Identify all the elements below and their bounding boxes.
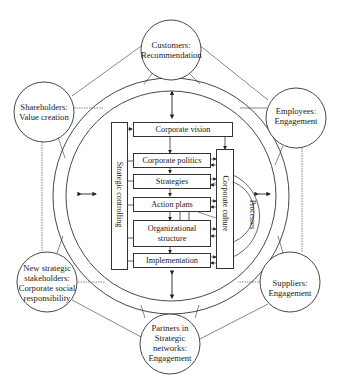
partners-line-3: networks: [140,343,200,353]
shareholders-subtitle: Value creation [14,112,74,122]
organizational-structure-box: Organizational structure [133,220,211,247]
new-strategic-line-1: New strategic [15,263,79,273]
new-strategic-line-3: Corporate social [15,283,79,293]
employees-subtitle: Engagement [266,116,326,126]
stakeholder-partners: Partners in Strategic networks: Engageme… [140,323,200,363]
customers-title: Customers: [141,40,201,50]
new-strategic-line-2: stakeholders: [15,273,79,283]
corporate-culture-label: Corporate culture [221,164,230,244]
processes-label: Processes [248,190,257,240]
shareholders-title: Shareholders: [14,102,74,112]
new-strategic-line-4: responsibility [15,293,79,303]
strategic-controlling-label: Strategic controlling [115,155,124,235]
stakeholder-shareholders: Shareholders: Value creation [14,102,74,122]
suppliers-subtitle: Engagement [260,288,320,298]
stakeholder-employees: Employees: Engagement [266,106,326,126]
implementation-box: Implementation [133,253,211,268]
corporate-politics-box: Corporate politics [133,153,211,168]
partners-line-2: Strategic [140,333,200,343]
org-structure-line-2: structure [158,234,187,244]
partners-line-4: Engagement [140,353,200,363]
suppliers-title: Suppliers: [260,278,320,288]
corporate-vision-box: Corporate vision [133,122,233,137]
partners-line-1: Partners in [140,323,200,333]
employees-title: Employees: [266,106,326,116]
org-structure-line-1: Organizational [148,224,197,234]
stakeholder-customers: Customers: Recommendation [141,40,201,60]
stakeholder-new-strategic: New strategic stakeholders: Corporate so… [15,263,79,303]
stakeholder-suppliers: Suppliers: Engagement [260,278,320,298]
action-plans-box: Action plans [133,197,211,212]
strategies-box: Strategies [133,174,211,189]
customers-subtitle: Recommendation [141,50,201,60]
